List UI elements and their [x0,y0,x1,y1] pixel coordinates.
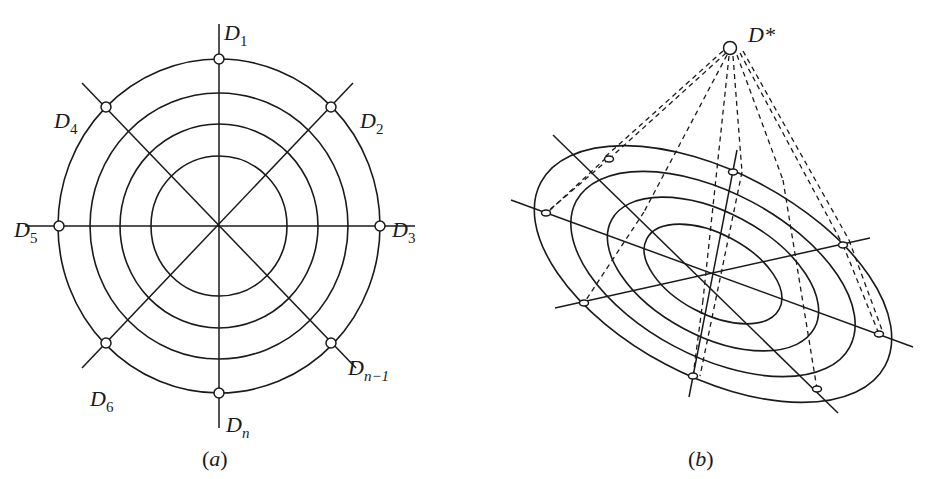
node-d4 [101,102,111,112]
projection-line-13 [740,53,843,245]
label-d4: D4 [53,108,78,137]
caption-a-letter: a [209,446,220,471]
label-d-star: D* [747,22,775,47]
projected-node-8 [813,386,822,392]
projection-line-9 [733,56,742,172]
node-d1 [214,54,224,64]
node-d3 [375,221,385,231]
node-d5 [54,221,64,231]
projection-line-5 [644,55,727,212]
projection-line-2 [605,51,723,157]
projected-node-3 [542,210,551,216]
projection-line-14 [743,51,849,240]
projection-line-1 [609,53,726,159]
panel-a-concentric-circles: D1D2D3D4D5D6Dn−1Dn [13,20,415,441]
label-d5: D5 [13,217,37,246]
projected-axis-4 [555,238,870,308]
node-dn-1 [326,338,336,348]
diagram-figure: D1D2D3D4D5D6Dn−1Dn D* (a) (b) [0,0,932,479]
projection-line-11 [737,55,783,180]
label-d2: D2 [359,108,383,137]
projected-node-5 [580,300,589,306]
projection-line-6 [584,212,644,303]
projected-node-1 [605,156,614,162]
node-dn [214,388,224,398]
caption-b-letter: b [695,446,706,471]
label-dn: Dn [225,412,249,441]
projected-node-4 [839,242,848,248]
projected-node-7 [689,373,698,379]
label-d3: D3 [391,217,415,246]
projected-node-6 [875,331,884,337]
projection-line-3 [546,159,609,213]
projection-line-7 [703,56,729,300]
caption-b: (b) [688,446,714,471]
label-dn-1: Dn−1 [347,355,389,384]
projection-line-15 [843,245,879,334]
node-d2 [326,102,336,112]
projection-line-4 [549,158,606,211]
panel-b-projected-ellipses: D* [493,22,932,456]
label-d6: D6 [89,386,114,415]
projected-node-2 [729,169,738,175]
projected-axis-2 [553,135,838,413]
apex-node-d-star [724,42,737,55]
label-d1: D1 [223,20,247,49]
caption-a: (a) [202,446,228,471]
node-d6 [101,338,111,348]
